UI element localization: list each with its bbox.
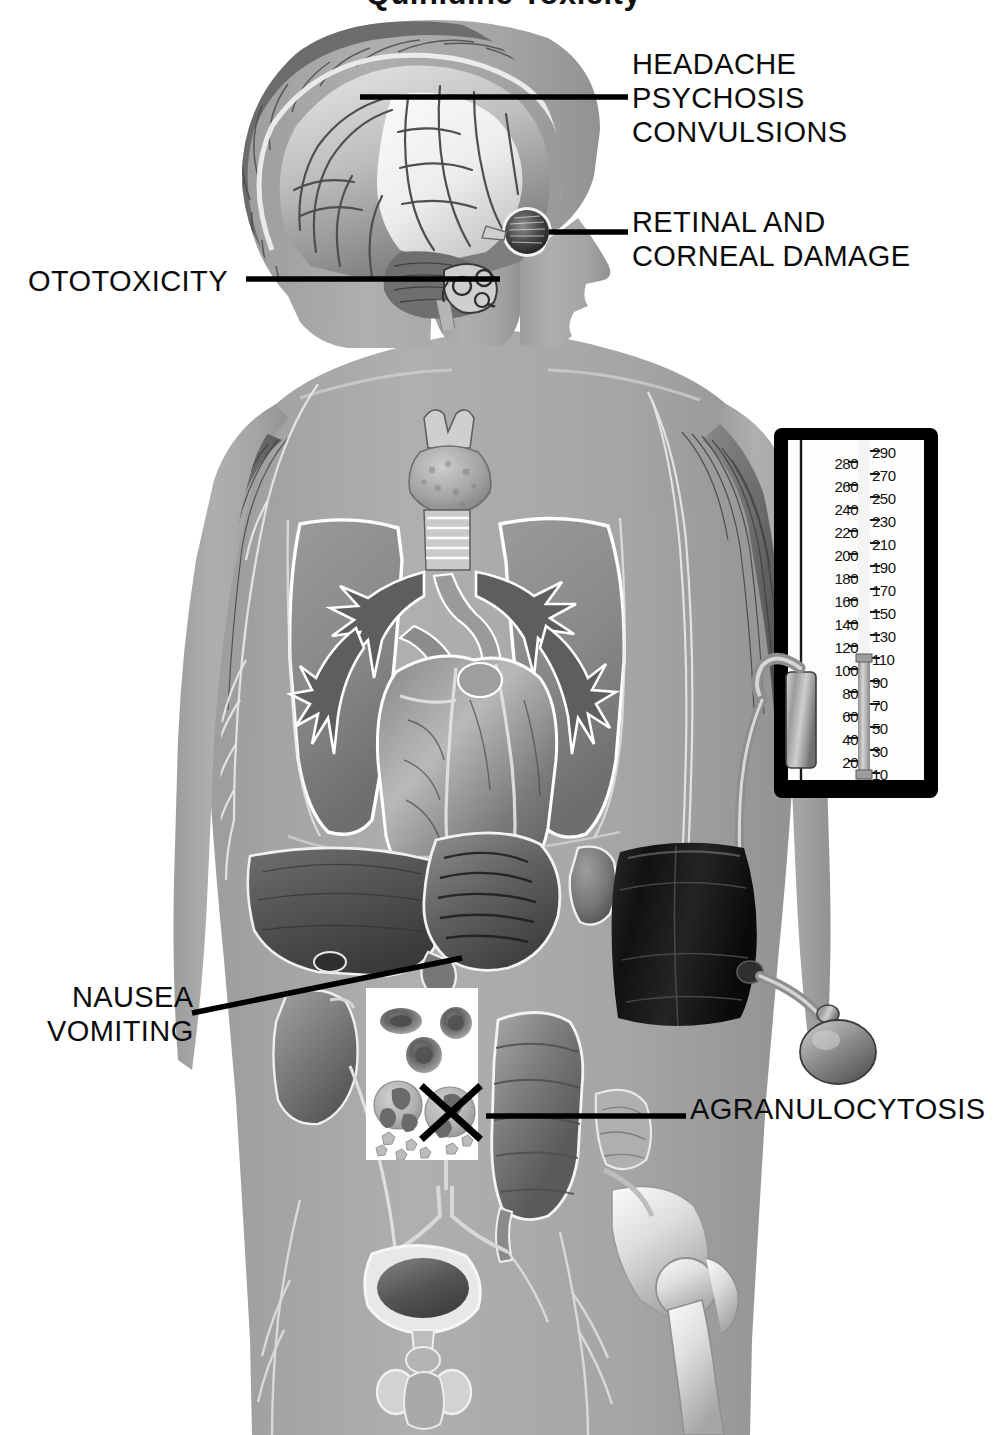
callout-line: HEADACHE (632, 47, 848, 81)
liver (248, 848, 445, 976)
manometer-scale-right: 2902702502302101901701501301109070503010 (872, 437, 924, 767)
callout-cerebral-effects: HEADACHE PSYCHOSIS CONVULSIONS (632, 47, 848, 149)
scale-tick-label: 110 (872, 652, 894, 667)
scale-tick-label: 230 (872, 514, 896, 529)
scale-tick-label: 40 (842, 732, 858, 747)
scale-tick-label: 130 (872, 629, 896, 644)
scale-tick-label: 280 (834, 456, 858, 471)
scale-tick-label: 200 (834, 548, 858, 563)
scale-tick-label: 10 (872, 767, 888, 782)
inflation-bulb (800, 1020, 876, 1084)
scale-tick-label: 70 (872, 698, 888, 713)
scale-tick-label: 160 (834, 594, 858, 609)
scale-tick-label: 170 (872, 583, 896, 598)
bladder-lumen (377, 1258, 469, 1318)
scale-tick-label: 30 (872, 744, 888, 759)
scale-tick-label: 290 (872, 445, 896, 460)
callout-line: AGRANULOCYTOSIS (690, 1092, 986, 1126)
callout-line: CORNEAL DAMAGE (632, 239, 910, 273)
illustration-canvas: Quinidine Toxicity (0, 0, 1007, 1435)
callout-ocular-effects: RETINAL AND CORNEAL DAMAGE (632, 205, 910, 273)
scale-tick-label: 90 (872, 675, 888, 690)
scale-tick-label: 260 (834, 479, 858, 494)
spleen (570, 847, 617, 925)
manometer-scale-left: 28026024022020018016014012010080604020 (806, 448, 858, 778)
callout-gastrointestinal-effects: NAUSEA VOMITING (47, 980, 194, 1048)
callout-line: VOMITING (47, 1014, 194, 1048)
callout-line: OTOTOXICITY (28, 264, 228, 298)
callout-line: RETINAL AND (632, 205, 910, 239)
scale-tick-label: 20 (842, 755, 858, 770)
aortic-root (458, 663, 502, 697)
prostate (406, 1347, 440, 1373)
blood-smear-inset (366, 988, 478, 1160)
scale-tick-label: 250 (872, 491, 896, 506)
gallbladder (314, 952, 346, 972)
callout-auditory-effects: OTOTOXICITY (28, 264, 228, 298)
scale-tick-label: 50 (872, 721, 888, 736)
callout-line: NAUSEA (47, 980, 194, 1014)
thyroid-gland (409, 446, 491, 514)
scale-tick-label: 220 (834, 525, 858, 540)
scale-tick-label: 210 (872, 537, 896, 552)
scale-tick-label: 270 (872, 468, 896, 483)
scale-tick-label: 140 (834, 617, 858, 632)
scale-tick-label: 180 (834, 571, 858, 586)
erythrocyte (406, 1037, 442, 1073)
scale-tick-label: 80 (842, 686, 858, 701)
callout-hematologic-effects: AGRANULOCYTOSIS (690, 1092, 986, 1126)
scale-tick-label: 60 (842, 709, 858, 724)
scale-tick-label: 100 (834, 663, 858, 678)
callout-line: CONVULSIONS (632, 115, 848, 149)
mercury-column (856, 440, 872, 780)
callout-line: PSYCHOSIS (632, 81, 848, 115)
scale-tick-label: 120 (834, 640, 858, 655)
scale-tick-label: 240 (834, 502, 858, 517)
scrotum (404, 1372, 444, 1429)
scale-tick-label: 190 (872, 560, 896, 575)
erythrocyte (380, 1008, 422, 1034)
erythrocyte (440, 1007, 472, 1039)
scale-tick-label: 150 (872, 606, 896, 621)
